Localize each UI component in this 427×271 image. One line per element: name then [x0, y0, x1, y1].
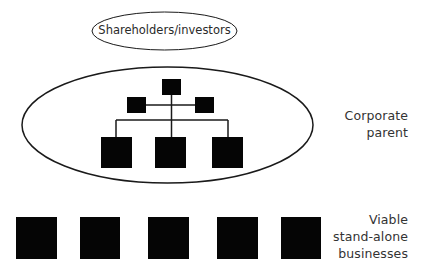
business-box-4: [217, 217, 258, 259]
business-box-5: [281, 217, 321, 259]
org-chart-side-box-right: [195, 97, 214, 113]
corporate-parent-label-line2: parent: [345, 124, 408, 141]
org-chart-top-box: [162, 79, 181, 95]
shareholders-label: Shareholders/investors: [92, 23, 237, 37]
businesses-label: Viable stand-alone businesses: [333, 211, 408, 262]
businesses-label-line2: stand-alone: [333, 228, 408, 245]
corporate-parent-label-line1: Corporate: [345, 107, 408, 124]
businesses-label-line1: Viable: [333, 211, 408, 228]
business-box-1: [16, 217, 57, 259]
businesses-label-line3: businesses: [333, 245, 408, 262]
org-chart-bottom-box-3: [212, 137, 243, 168]
org-chart-bottom-box-2: [155, 137, 186, 168]
business-box-3: [148, 217, 189, 259]
org-chart-side-box-left: [127, 97, 146, 113]
corporate-parent-label: Corporate parent: [345, 107, 408, 141]
org-chart-bottom-box-1: [101, 137, 132, 168]
business-box-2: [80, 217, 120, 259]
